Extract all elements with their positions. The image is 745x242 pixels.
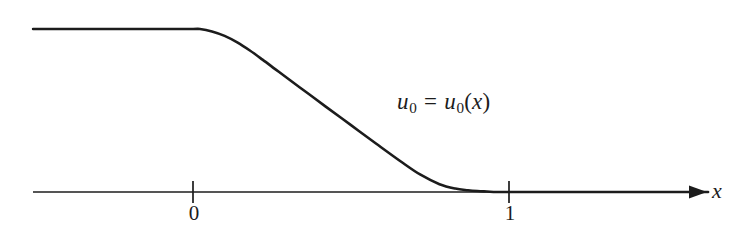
curve-label-rhs-subscript: 0 <box>456 99 464 116</box>
plot-svg <box>0 0 745 242</box>
curve-label-lhs-subscript: 0 <box>409 99 417 116</box>
curve-label-close-paren: ) <box>482 89 490 114</box>
curve-label-argument: x <box>472 89 482 114</box>
tick-label-zero: 0 <box>189 203 200 224</box>
curve-label-open-paren: ( <box>464 89 472 114</box>
curve-label-equals: = <box>417 89 444 114</box>
figure-canvas: 0 1 x u0=u0(x) <box>0 0 745 242</box>
x-axis-label: x <box>712 180 722 202</box>
u0-initial-data-curve <box>33 29 708 192</box>
curve-label-lhs-var: u <box>397 89 409 114</box>
tick-label-one: 1 <box>505 203 516 224</box>
curve-label-rhs-var: u <box>444 89 456 114</box>
curve-label: u0=u0(x) <box>397 90 490 115</box>
